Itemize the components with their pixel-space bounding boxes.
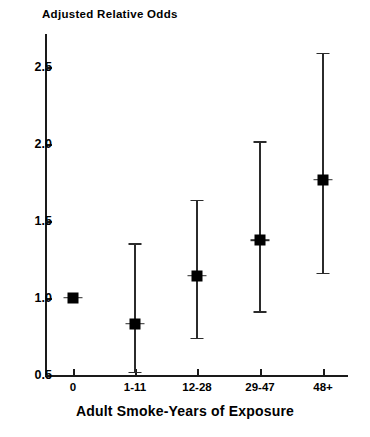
point-marker [318,174,329,185]
x-tick-0 [73,369,75,376]
confidence-interval-cap-upper [191,200,204,202]
x-tick-label-12-28: 12-28 [182,381,211,393]
point-marker [68,292,79,303]
x-tick-label-48plus: 48+ [313,381,333,393]
confidence-interval-line [134,243,135,372]
confidence-interval-cap-upper [254,141,267,143]
confidence-interval-cap-lower [191,338,204,340]
point-marker [130,318,141,329]
y-tick-label-1.5: 1.5 [35,214,52,228]
confidence-interval-cap-lower [317,273,330,275]
confidence-interval-cap-lower [129,372,142,374]
y-tick-label-1.0: 1.0 [35,291,52,305]
x-axis-title: Adult Smoke-Years of Exposure [0,403,370,419]
confidence-interval-line [259,141,260,312]
chart-title: Adjusted Relative Odds [42,8,178,20]
point-marker [255,235,266,246]
x-tick-label-0: 0 [70,381,76,393]
y-tick-label-2.0: 2.0 [35,137,52,151]
confidence-interval-line [322,53,323,273]
y-axis-line [45,34,47,376]
y-tick-label-2.5: 2.5 [35,60,52,74]
confidence-interval-line [196,200,197,338]
x-tick-label-29-47: 29-47 [245,381,274,393]
x-tick-12-28 [197,369,199,376]
confidence-interval-cap-upper [129,243,142,245]
confidence-interval-cap-upper [317,53,330,55]
x-tick-29-47 [260,369,262,376]
x-tick-label-1-11: 1-11 [124,381,146,393]
confidence-interval-cap-lower [254,311,267,313]
relative-odds-chart: Adjusted Relative Odds 2.5 2.0 1.5 1.0 0… [0,0,370,437]
y-tick-label-0.5: 0.5 [35,368,52,382]
point-marker [192,270,203,281]
x-tick-48plus [323,369,325,376]
